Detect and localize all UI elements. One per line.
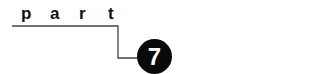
- part-number: 7: [148, 43, 161, 71]
- part-number-badge: 7: [137, 39, 172, 74]
